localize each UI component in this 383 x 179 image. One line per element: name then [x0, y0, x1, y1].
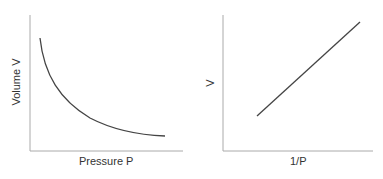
charts-canvas: [0, 0, 383, 179]
right-x-label: 1/P: [290, 155, 307, 167]
left-x-label: Pressure P: [79, 155, 133, 167]
right-y-label: V: [204, 78, 216, 88]
left-y-label: Volume V: [10, 57, 22, 107]
left-curve: [40, 38, 165, 136]
right-line: [257, 22, 360, 116]
